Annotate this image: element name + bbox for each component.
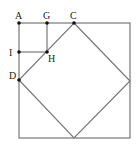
label-I: I <box>9 47 12 58</box>
point-I <box>17 50 21 54</box>
label-G: G <box>43 10 50 21</box>
point-G <box>45 21 49 25</box>
inscribed-square <box>19 23 130 138</box>
outer-square <box>19 23 130 138</box>
geometry-diagram: A G C I H D <box>0 0 139 148</box>
point-C <box>72 21 76 25</box>
label-A: A <box>15 10 23 21</box>
label-H: H <box>48 53 55 64</box>
point-D <box>17 78 21 82</box>
point-A <box>17 21 21 25</box>
label-D: D <box>9 70 16 81</box>
label-C: C <box>70 10 77 21</box>
